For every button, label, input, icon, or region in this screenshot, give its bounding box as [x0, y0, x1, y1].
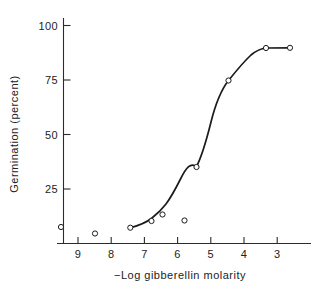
- x-tick-label-3: 3: [274, 248, 281, 260]
- data-point: [182, 218, 187, 223]
- x-tick-label-7: 7: [141, 248, 148, 260]
- sigmoid-fit-curve: [130, 48, 290, 228]
- x-tick-label-6: 6: [174, 248, 181, 260]
- y-tick-label-group: 100 75 50 25: [38, 20, 58, 196]
- y-tick-label-50: 50: [45, 129, 58, 141]
- x-tick-label-5: 5: [208, 248, 215, 260]
- data-point: [263, 45, 268, 50]
- x-axis-title: −Log gibberellin molarity: [114, 269, 246, 281]
- y-tick-label-100: 100: [38, 20, 58, 32]
- data-point: [92, 231, 97, 236]
- x-tick-label-group: 9 8 7 6 5 4 3: [75, 248, 281, 260]
- y-axis-title: Germination (percent): [8, 75, 20, 193]
- data-point: [287, 45, 292, 50]
- data-point: [160, 212, 165, 217]
- data-point: [58, 224, 63, 229]
- data-point: [194, 164, 199, 169]
- x-tick-label-8: 8: [108, 248, 115, 260]
- data-point: [128, 225, 133, 230]
- y-tick-label-25: 25: [45, 183, 58, 195]
- data-point: [226, 78, 231, 83]
- x-tick-label-9: 9: [75, 248, 82, 260]
- y-tick-group: [64, 26, 71, 190]
- data-point-group: [58, 45, 292, 236]
- x-tick-group: [78, 237, 277, 244]
- scatter-plot-svg: 100 75 50 25 9 8 7 6 5 4 3 −Log gibberel…: [0, 0, 321, 293]
- axes-group: [57, 18, 311, 244]
- x-tick-label-4: 4: [241, 248, 248, 260]
- data-point: [149, 218, 154, 223]
- y-tick-label-75: 75: [45, 74, 58, 86]
- chart-figure: 100 75 50 25 9 8 7 6 5 4 3 −Log gibberel…: [0, 0, 321, 293]
